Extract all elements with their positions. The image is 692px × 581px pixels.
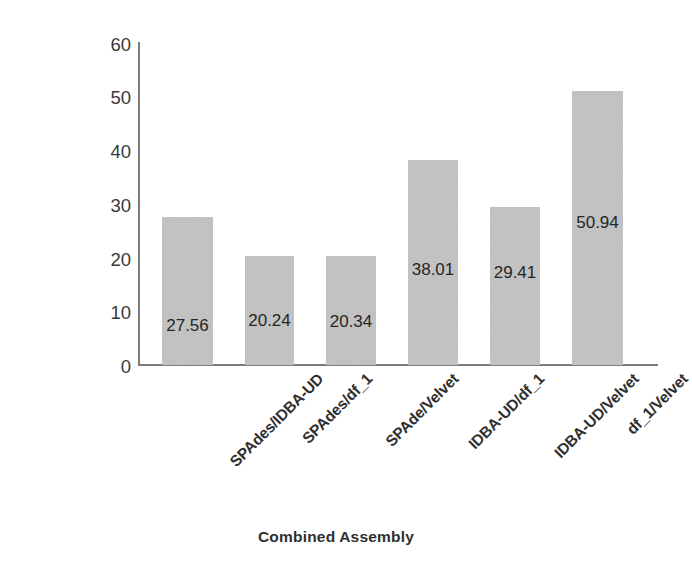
y-tick-label: 60	[95, 36, 131, 55]
y-tick-label: 30	[95, 197, 131, 216]
y-tick-label: 20	[95, 251, 131, 270]
bar-2: 20.34	[326, 256, 376, 366]
x-axis-category-labels: SPAdes/IDBA-UD SPAdes/df_1 SPAde/Velvet …	[0, 370, 672, 515]
y-tick-label: 40	[95, 143, 131, 162]
bar-value-label: 20.34	[330, 313, 373, 330]
bar-0: 27.56	[162, 217, 213, 365]
y-tick-label: 50	[95, 89, 131, 108]
plot-area: 27.56 20.24 20.34 38.01 29.41 50.94	[140, 42, 658, 365]
bar-value-label: 20.24	[248, 312, 291, 329]
bar-value-label: 27.56	[166, 317, 209, 334]
bar-5: 50.94	[572, 91, 623, 365]
x-axis-title: Combined Assembly	[0, 528, 672, 546]
x-tick-label-3: IDBA-UD/df_1	[465, 370, 548, 453]
bar-value-label: 29.41	[494, 264, 537, 281]
y-tick-label: 10	[95, 304, 131, 323]
bar-value-label: 50.94	[576, 214, 619, 231]
x-tick-label-2: SPAde/Velvet	[382, 370, 462, 450]
bar-4: 29.41	[490, 207, 540, 365]
bar-value-label: 38.01	[412, 261, 455, 278]
bar-1: 20.24	[245, 256, 294, 365]
bar-3: 38.01	[408, 160, 458, 365]
x-tick-label-4: IDBA-UD/Velvet	[551, 370, 643, 462]
